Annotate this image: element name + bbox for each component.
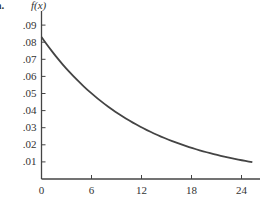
y-tick-label: .05 — [23, 87, 37, 99]
axes — [42, 11, 261, 179]
x-tick-label: 12 — [136, 184, 147, 196]
part-label: a. — [0, 0, 5, 11]
y-tick-label: .08 — [23, 36, 37, 48]
density-chart: a. f(x) .01.02.03.04.05.06.07.08.09 0612… — [0, 0, 267, 197]
y-axis-label: f(x) — [31, 0, 47, 12]
x-tick-label: 0 — [39, 184, 45, 196]
y-tick-label: .07 — [23, 53, 37, 65]
y-tick-label: .04 — [23, 104, 37, 116]
y-tick-label: .09 — [23, 19, 37, 31]
x-tick-label: 6 — [89, 184, 95, 196]
x-tick-label: 18 — [186, 184, 198, 196]
y-tick-label: .02 — [23, 138, 37, 150]
y-tick-label: .03 — [23, 121, 37, 133]
y-tick-label: .06 — [23, 70, 37, 82]
density-curve — [42, 37, 253, 162]
x-axis-ticks: 06121824 — [39, 175, 248, 196]
x-tick-label: 24 — [236, 184, 248, 196]
y-tick-label: .01 — [23, 155, 37, 167]
